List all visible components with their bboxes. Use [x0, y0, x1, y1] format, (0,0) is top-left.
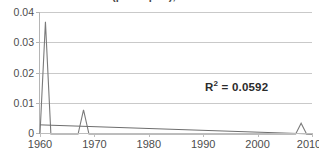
- series-line-data: [40, 22, 312, 134]
- x-tick-1960: [40, 133, 41, 137]
- y-tick-label-0.02: 0.02: [14, 67, 34, 78]
- y-tick-label-0.04: 0.04: [14, 7, 34, 18]
- series-layer: [40, 12, 312, 134]
- x-tick-label-1960: 1960: [28, 139, 52, 150]
- x-tick-label-1990: 1990: [191, 139, 215, 150]
- chart-title: (per capita), 1960–2010: [112, 0, 235, 2]
- x-tick-label-2010: 2010: [297, 139, 319, 150]
- y-tick-label-0.01: 0.01: [14, 98, 34, 109]
- x-tick-2000: [258, 133, 259, 137]
- x-tick-label-1970: 1970: [82, 139, 106, 150]
- x-tick-2010: [312, 133, 313, 137]
- x-tick-1980: [149, 133, 150, 137]
- y-tick-label-0: 0: [28, 128, 34, 139]
- x-tick-1990: [203, 133, 204, 137]
- r-squared-annotation: R2 = 0.0592: [205, 79, 268, 93]
- x-tick-label-2000: 2000: [245, 139, 269, 150]
- y-tick-label-0.03: 0.03: [14, 37, 34, 48]
- r-squared-exponent: 2: [214, 79, 219, 88]
- x-axis-line: [40, 133, 312, 134]
- x-tick-1970: [94, 133, 95, 137]
- r-squared-symbol: R: [205, 81, 214, 93]
- chart-title-clipped: (per capita), 1960–2010: [0, 0, 319, 8]
- r-squared-value: = 0.0592: [222, 81, 269, 93]
- x-tick-label-1980: 1980: [137, 139, 161, 150]
- chart-container: (per capita), 1960–2010 0.04 0.03 0.02 0…: [0, 0, 319, 165]
